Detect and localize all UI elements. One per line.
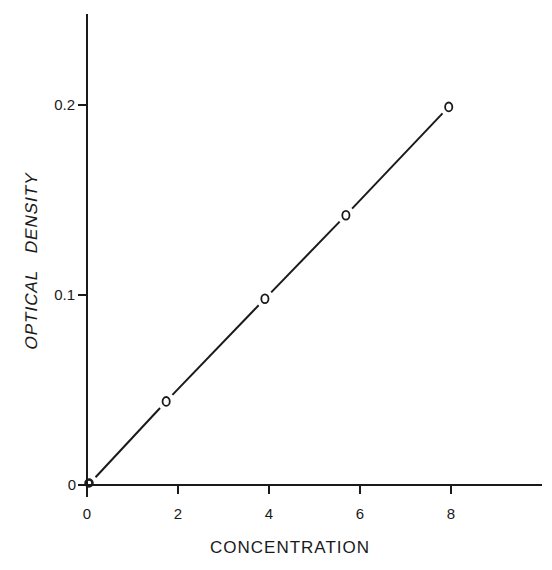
origin-point-marker [86, 480, 93, 487]
y-axis-ticks: 00.10.2 [54, 96, 87, 493]
chart: 02468 00.10.2 CONCENTRATION OPTICAL DENS… [0, 0, 552, 570]
x-tick-label: 4 [265, 505, 273, 522]
data-point-marker [261, 294, 268, 303]
y-axis-title: OPTICAL DENSITY [21, 170, 41, 351]
data-point-marker [163, 397, 170, 406]
x-tick-label: 2 [174, 505, 182, 522]
x-tick-label: 8 [447, 505, 455, 522]
data-point-marker [445, 103, 452, 112]
x-tick-label: 6 [356, 505, 364, 522]
fit-line-segment [172, 305, 258, 395]
data-point-marker [342, 211, 349, 220]
fit-line-segment [96, 408, 160, 477]
x-axis-ticks: 02468 [83, 485, 455, 522]
y-tick-label: 0 [68, 476, 76, 493]
y-tick-label: 0.2 [54, 96, 75, 113]
axes [78, 14, 542, 497]
y-tick-label: 0.1 [54, 286, 75, 303]
fit-line [96, 113, 443, 477]
fit-line-segment [271, 222, 339, 293]
fit-line-segment [352, 113, 442, 208]
x-axis-title: CONCENTRATION [210, 538, 370, 557]
x-tick-label: 0 [83, 505, 91, 522]
